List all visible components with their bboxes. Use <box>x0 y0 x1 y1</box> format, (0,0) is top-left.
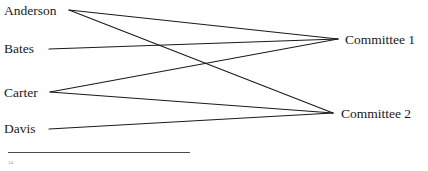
node-label-bates: Bates <box>4 42 34 56</box>
node-label-committee-2: Committee 2 <box>341 107 411 121</box>
edge-layer <box>0 0 428 171</box>
edge-anderson-committee2 <box>69 10 333 113</box>
node-label-carter: Carter <box>4 86 38 100</box>
footnote-text: 14 <box>8 160 218 171</box>
footnote-marker: 14 <box>8 160 13 165</box>
node-label-committee-1: Committee 1 <box>345 33 415 47</box>
node-label-anderson: Anderson <box>4 4 57 18</box>
edge-davis-committee2 <box>49 113 333 129</box>
edge-anderson-committee1 <box>69 10 338 39</box>
figure-bipartite-graph: Anderson Bates Carter Davis Committee 1 … <box>0 0 428 171</box>
node-label-davis: Davis <box>4 122 36 136</box>
edge-carter-committee2 <box>50 92 333 113</box>
footnote-separator-rule <box>8 152 190 153</box>
